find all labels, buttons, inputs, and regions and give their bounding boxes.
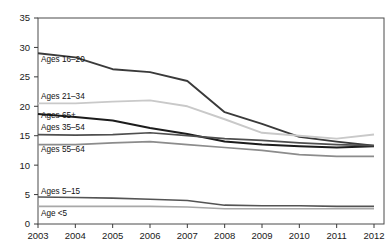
series-label-2: Ages 21–34 xyxy=(41,92,85,101)
series-line-6 xyxy=(38,197,374,206)
plot-frame-group xyxy=(38,18,384,224)
y-tick-label: 25 xyxy=(19,71,30,82)
x-tick-label: 2004 xyxy=(65,230,86,241)
x-tick-label: 2003 xyxy=(27,230,48,241)
line-chart: 05101520253035 2003200420052006200720082… xyxy=(0,0,389,249)
series-line-2 xyxy=(38,100,374,138)
y-tick-label: 10 xyxy=(19,160,30,171)
x-tick-label: 2008 xyxy=(214,230,235,241)
y-tick-label: 35 xyxy=(19,12,30,23)
series-label-1: Ages 16–20 xyxy=(41,55,85,64)
series-label-7: Age <5 xyxy=(41,209,68,218)
series-label-4: Ages 35–54 xyxy=(41,123,85,132)
series-label-6: Ages 5–15 xyxy=(41,187,81,196)
x-tick-label: 2006 xyxy=(139,230,160,241)
chart-container: 05101520253035 2003200420052006200720082… xyxy=(0,0,389,249)
y-tick-label: 15 xyxy=(19,130,30,141)
y-tick-label: 5 xyxy=(25,189,30,200)
y-tick-label: 0 xyxy=(25,218,30,229)
series-line-1 xyxy=(38,53,374,145)
y-tick-label: 20 xyxy=(19,101,30,112)
x-tick-label: 2010 xyxy=(289,230,310,241)
x-tick-label: 2009 xyxy=(251,230,272,241)
series-label-3: Ages 65+ xyxy=(41,111,76,120)
series-label-5: Ages 55–64 xyxy=(41,145,85,154)
x-tick-label: 2007 xyxy=(177,230,198,241)
cut-off-title xyxy=(0,0,389,1)
plot-area-border xyxy=(38,18,384,224)
series-lines xyxy=(38,53,374,208)
y-axis-ticks: 05101520253035 xyxy=(19,12,38,229)
x-axis-ticks: 2003200420052006200720082009201020112012 xyxy=(27,224,384,241)
series-line-3 xyxy=(38,114,374,148)
x-tick-label: 2005 xyxy=(102,230,123,241)
series-labels: Ages 16–20Ages 21–34Ages 65+Ages 35–54Ag… xyxy=(41,55,85,218)
y-tick-label: 30 xyxy=(19,42,30,53)
x-tick-label: 2012 xyxy=(363,230,384,241)
x-tick-label: 2011 xyxy=(326,230,346,241)
